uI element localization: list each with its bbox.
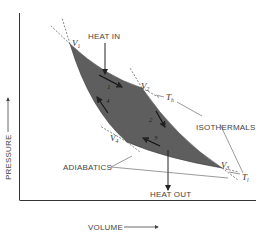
state-v1-label: V1 <box>72 38 81 49</box>
heat-out-label: HEAT OUT <box>150 190 191 199</box>
x-axis-label: VOLUME <box>88 223 123 232</box>
adiabatics-label: ADIABATICS <box>63 163 112 172</box>
y-axis-label: PRESSURE <box>4 134 13 180</box>
isothermals-label: ISOTHERMALS <box>196 123 256 132</box>
temp-tl-label: Tl <box>242 172 249 183</box>
temp-th-label: Th <box>166 92 174 103</box>
cycle-region <box>70 44 222 168</box>
step-1-label: 1 <box>107 83 111 91</box>
pv-diagram: 1 2 3 4 V1 V2 V3 V4 Th Tl HEAT IN HEAT O… <box>0 0 265 234</box>
step-3-label: 3 <box>153 134 158 142</box>
step-2-label: 2 <box>149 116 153 124</box>
state-v4-label: V4 <box>110 133 119 144</box>
state-v3-label: V3 <box>221 160 230 171</box>
heat-in-label: HEAT IN <box>88 32 120 41</box>
step-4-label: 4 <box>106 97 110 105</box>
state-v2-label: V2 <box>141 81 150 92</box>
